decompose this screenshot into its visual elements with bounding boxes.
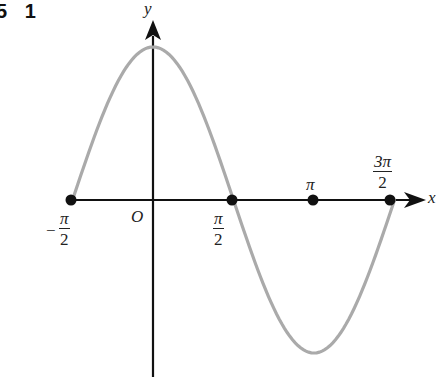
point-half-pi	[227, 195, 238, 206]
point-pi	[308, 195, 319, 206]
tick-numerator: π	[213, 210, 224, 229]
origin-label: O	[131, 208, 143, 225]
tick-denominator: 2	[378, 172, 387, 191]
neg-sign: −	[46, 221, 56, 241]
x-axis-label: x	[428, 189, 436, 206]
y-axis-label: y	[144, 0, 152, 17]
tick-label-three-half-pi: 3π 2	[373, 153, 392, 191]
tick-label-pi: π	[306, 176, 315, 193]
tick-numerator: 3π	[373, 153, 392, 172]
point-neg-half-pi	[66, 195, 77, 206]
tick-denominator: 2	[60, 229, 69, 248]
tick-numerator: π	[59, 210, 70, 229]
tick-label-neg-half-pi: π 2	[59, 210, 70, 248]
tick-denominator: 2	[214, 229, 223, 248]
tick-label-half-pi: π 2	[213, 210, 224, 248]
point-three-half-pi	[385, 195, 396, 206]
